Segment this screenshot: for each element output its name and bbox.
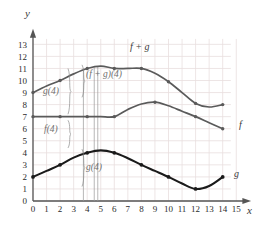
- data-point-marker: [31, 115, 34, 118]
- x-tick-label: 11: [178, 204, 187, 214]
- x-tick-label: 8: [139, 204, 144, 214]
- data-point-marker: [31, 175, 35, 179]
- y-tick-label: 5: [23, 136, 28, 146]
- data-point-marker: [58, 163, 62, 167]
- data-point-marker: [167, 80, 170, 83]
- x-axis-label: x: [246, 204, 252, 216]
- y-tick-label: 8: [23, 100, 28, 110]
- curve-label-g: g: [234, 168, 239, 179]
- y-axis-label: y: [24, 7, 30, 19]
- data-point-marker: [221, 103, 224, 106]
- y-tick-label: 0: [23, 196, 28, 206]
- data-point-marker: [194, 102, 197, 105]
- grid-layer: [33, 39, 236, 201]
- data-point-marker: [194, 115, 197, 118]
- data-point-marker: [140, 67, 143, 70]
- data-point-marker: [112, 151, 116, 155]
- y-axis-arrowhead: [30, 29, 36, 38]
- y-tick-label: 7: [23, 112, 28, 122]
- x-tick-label: 4: [85, 204, 90, 214]
- data-point-marker: [58, 79, 61, 82]
- data-point-marker: [153, 100, 156, 103]
- curve-label-f-plus-g: f + g: [130, 41, 150, 52]
- y-tick-label: 4: [23, 148, 28, 158]
- annotation-g4-lower: g(4): [86, 162, 102, 173]
- data-point-marker: [85, 151, 89, 155]
- measure-lines-layer: [83, 67, 97, 201]
- data-point-marker: [86, 115, 89, 118]
- y-tick-label: 2: [23, 172, 28, 182]
- y-tick-label: 6: [23, 124, 28, 134]
- x-tick-label: 3: [71, 204, 76, 214]
- x-tick-label: 14: [218, 204, 228, 214]
- annotation-f4: f(4): [44, 124, 58, 135]
- annotation-layer: [68, 65, 85, 187]
- data-point-marker: [221, 175, 225, 179]
- x-tick-label: 0: [31, 204, 36, 214]
- data-point-marker: [58, 115, 61, 118]
- x-tick-label: 6: [112, 204, 117, 214]
- data-point-marker: [221, 127, 224, 130]
- plot-svg: 0123456789101112131415012345678910111213…: [0, 0, 262, 228]
- x-tick-label: 2: [58, 204, 63, 214]
- y-tick-label: 10: [18, 76, 28, 86]
- brace-f4: [68, 120, 71, 148]
- x-tick-label: 5: [99, 204, 104, 214]
- data-point-marker: [113, 115, 116, 118]
- annotation-fg4: (f + g)(4): [86, 69, 122, 80]
- chart-figure: 0123456789101112131415012345678910111213…: [0, 0, 262, 228]
- y-tick-label: 11: [18, 64, 27, 74]
- x-tick-label: 10: [164, 204, 174, 214]
- x-tick-label: 1: [44, 204, 49, 214]
- y-tick-label: 12: [18, 52, 27, 62]
- x-tick-label: 13: [205, 204, 215, 214]
- data-point-marker: [140, 163, 144, 167]
- x-tick-label: 12: [191, 204, 200, 214]
- y-tick-label: 3: [23, 160, 28, 170]
- data-point-marker: [31, 91, 34, 94]
- x-tick-label: 7: [126, 204, 131, 214]
- y-tick-label: 9: [23, 88, 28, 98]
- data-point-marker: [167, 175, 171, 179]
- x-tick-label: 15: [232, 204, 242, 214]
- annotation-g4-upper: g(4): [43, 86, 59, 97]
- y-tick-label: 1: [23, 184, 28, 194]
- y-tick-label: 13: [18, 40, 28, 50]
- curve-label-f: f: [239, 119, 243, 130]
- data-point-marker: [194, 187, 198, 191]
- x-tick-label: 9: [153, 204, 158, 214]
